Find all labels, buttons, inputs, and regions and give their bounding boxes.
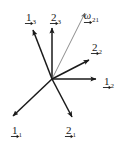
vector-arrow-e1-1 [13, 79, 52, 116]
vector-diagram-figure: 1 3 2 3 ω 21 2 [0, 0, 128, 144]
vector-arrow-e2-2 [52, 60, 89, 79]
vector-subscript-e2-2: 2 [99, 49, 103, 56]
vector-label-e1-1: 1 1 [12, 121, 22, 137]
vector-symbol-e2-3: 2 [51, 12, 57, 22]
vector-symbol-e1-2: 1 [104, 76, 110, 86]
vector-subscript-e2-1: 1 [73, 132, 77, 139]
under-arrow-icon [83, 20, 92, 25]
vector-subscript-e2-3: 3 [58, 19, 62, 26]
vector-label-e1-2: 1 2 [104, 72, 114, 88]
vector-symbol-e2-1: 2 [66, 125, 72, 135]
vector-subscript-e1-2: 2 [111, 83, 115, 90]
vector-label-e2-2: 2 2 [92, 38, 102, 54]
vector-symbol-omega-21: ω [84, 11, 91, 21]
vector-subscript-e1-1: 1 [19, 132, 23, 139]
vector-arrow-e1-3 [33, 30, 52, 79]
vector-label-e2-1: 2 1 [66, 121, 76, 137]
vector-symbol-e1-3: 1 [26, 12, 32, 22]
vector-label-e1-3: 1 3 [26, 8, 36, 24]
vector-subscript-e1-3: 3 [33, 19, 37, 26]
vector-label-e2-3: 2 3 [51, 8, 61, 24]
vector-subscript-omega-21: 21 [92, 17, 99, 24]
vector-symbol-e2-2: 2 [92, 42, 98, 52]
vector-label-omega-21: ω 21 [84, 6, 99, 22]
vector-symbol-e1-1: 1 [12, 125, 18, 135]
vector-arrow-e2-1 [52, 79, 72, 117]
